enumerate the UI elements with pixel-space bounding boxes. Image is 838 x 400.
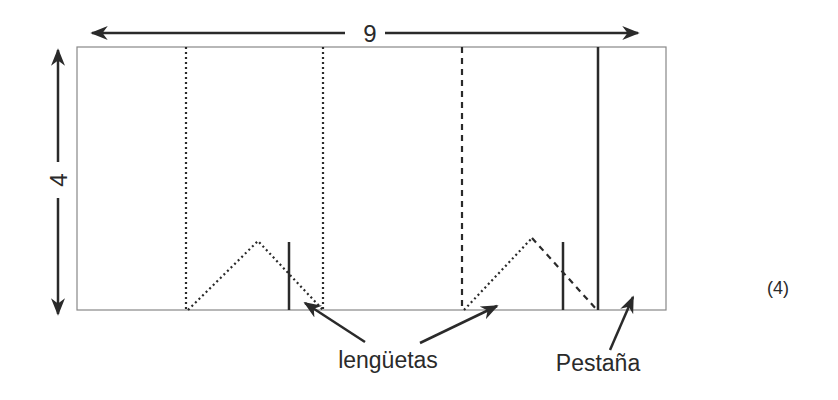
figure-number: (4) [767, 278, 789, 298]
callout-arrow-flap [610, 297, 633, 350]
callout-arrow-tab-2 [420, 306, 497, 343]
tab-2-outline-right [532, 238, 597, 310]
folding-template-diagram: 9 4 lengüetas Pestaña (4) [0, 0, 838, 400]
width-label: 9 [363, 20, 376, 47]
height-label: 4 [45, 173, 72, 186]
callout-arrow-tab-1 [305, 303, 365, 342]
paper-outline [77, 47, 666, 310]
tab-1-outline [188, 241, 323, 310]
flap-label: Pestaña [556, 350, 641, 376]
tab-2-outline-left [464, 238, 532, 310]
tabs-label: lengüetas [338, 347, 438, 373]
